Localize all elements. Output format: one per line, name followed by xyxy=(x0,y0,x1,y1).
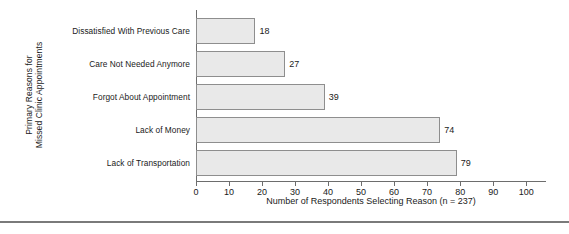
bar-value-label: 74 xyxy=(444,125,454,135)
x-tick-mark xyxy=(295,182,296,186)
category-label: Care Not Needed Anymore xyxy=(89,59,190,69)
bar-value-label: 79 xyxy=(461,158,471,168)
bar-row: Lack of Transportation79 xyxy=(196,150,546,176)
bar-row: Forgot About Appointment39 xyxy=(196,84,546,110)
category-label: Forgot About Appointment xyxy=(93,92,190,102)
y-axis-title-line-2: Missed Clinic Appointments xyxy=(34,42,44,149)
x-tick-mark xyxy=(427,182,428,186)
x-tick-mark xyxy=(262,182,263,186)
x-tick-mark xyxy=(229,182,230,186)
x-tick-mark xyxy=(328,182,329,186)
plot-area: Dissatisfied With Previous Care18Care No… xyxy=(196,10,546,182)
bar-row: Care Not Needed Anymore27 xyxy=(196,51,546,77)
category-label: Lack of Money xyxy=(135,125,190,135)
x-tick-mark xyxy=(196,182,197,186)
bar xyxy=(196,150,457,176)
bar-chart-figure: Primary Reasons for Missed Clinic Appoin… xyxy=(0,0,569,234)
y-axis-title: Primary Reasons for Missed Clinic Appoin… xyxy=(14,10,60,180)
category-label: Dissatisfied With Previous Care xyxy=(72,26,190,36)
bar-value-label: 27 xyxy=(289,59,299,69)
bar xyxy=(196,117,440,143)
category-label: Lack of Transportation xyxy=(107,158,190,168)
bar xyxy=(196,84,325,110)
x-axis-title: Number of Respondents Selecting Reason (… xyxy=(196,196,546,206)
bar-value-label: 39 xyxy=(329,92,339,102)
x-tick-mark xyxy=(394,182,395,186)
bar-value-label: 18 xyxy=(259,26,269,36)
bottom-divider xyxy=(0,221,569,223)
bar-row: Dissatisfied With Previous Care18 xyxy=(196,18,546,44)
x-tick-mark xyxy=(493,182,494,186)
x-tick-mark xyxy=(526,182,527,186)
y-axis-title-line-1: Primary Reasons for xyxy=(24,55,34,134)
bar xyxy=(196,18,255,44)
x-tick-mark xyxy=(460,182,461,186)
bar xyxy=(196,51,285,77)
bar-row: Lack of Money74 xyxy=(196,117,546,143)
x-tick-mark xyxy=(361,182,362,186)
